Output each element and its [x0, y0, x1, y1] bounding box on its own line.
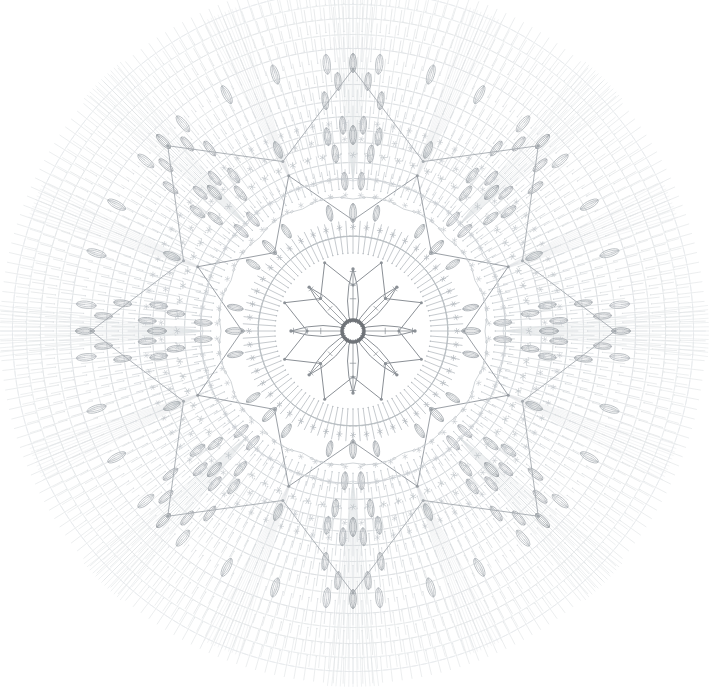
doily-chart-root	[0, 0, 709, 689]
crochet-doily-diagram	[0, 0, 709, 689]
round-center-ring	[342, 320, 364, 342]
